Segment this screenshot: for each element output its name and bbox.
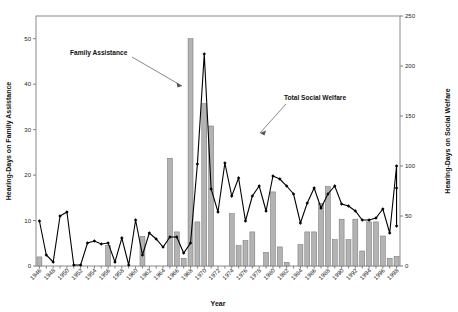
y2-axis-tick-label: 0 <box>405 263 409 269</box>
bar-series-family-assistance <box>37 39 399 266</box>
bar <box>229 214 234 266</box>
bar <box>305 232 310 266</box>
y2-axis-tick-label: 150 <box>405 113 416 119</box>
x-axis-tick-label: 1976 <box>235 267 249 281</box>
bar <box>37 257 42 266</box>
y2-axis-title: Hearing-Days on Social Welfare <box>444 88 452 193</box>
x-axis-tick-label: 1968 <box>180 267 194 281</box>
bar <box>236 246 241 266</box>
x-axis-tick-label: 1956 <box>98 267 112 281</box>
y-axis-title: Hearing-Days on Family Assistance <box>5 82 13 201</box>
y-axis-tick-label: 50 <box>24 36 31 42</box>
x-axis-tick-label: 1986 <box>304 267 318 281</box>
data-point-marker <box>312 186 315 189</box>
bar <box>387 258 392 266</box>
x-axis-tick-label: 1974 <box>221 267 235 281</box>
data-point-marker <box>388 231 391 234</box>
data-point-marker <box>395 224 398 227</box>
y-axis-tick-label: 30 <box>24 127 31 133</box>
data-point-marker <box>271 174 274 177</box>
data-point-marker <box>106 241 109 244</box>
x-axis-tick-label: 1964 <box>153 267 167 281</box>
bar <box>394 256 399 266</box>
bar <box>270 192 275 266</box>
x-axis-tick-label: 1962 <box>139 267 153 281</box>
data-point-marker <box>230 194 233 197</box>
bar <box>277 247 282 266</box>
x-axis-tick-label: 1966 <box>166 267 180 281</box>
x-axis-tick-label: 1954 <box>84 267 98 281</box>
x-axis-tick-label: 1978 <box>249 267 263 281</box>
bar <box>167 158 172 266</box>
data-point-marker <box>86 241 89 244</box>
x-axis-title: Year <box>211 300 226 307</box>
bar <box>188 39 193 266</box>
bar <box>339 219 344 266</box>
x-axis-tick-label: 1950 <box>56 267 70 281</box>
bar <box>195 222 200 266</box>
data-point-marker <box>216 210 219 213</box>
y2-axis-tick-label: 100 <box>405 163 416 169</box>
x-axis-tick-label: 1998 <box>386 267 400 281</box>
data-point-marker <box>120 236 123 239</box>
bar <box>332 240 337 266</box>
x-axis-tick-label: 1970 <box>194 267 208 281</box>
data-point-marker <box>93 239 96 242</box>
y-axis-tick-label: 40 <box>24 81 31 87</box>
y2-axis-tick-label: 200 <box>405 63 416 69</box>
data-point-marker <box>340 202 343 205</box>
chart-container: 0102030405005010015020025019461948195019… <box>0 0 458 312</box>
data-point-marker <box>113 260 116 263</box>
data-point-marker <box>306 201 309 204</box>
bar <box>360 251 365 266</box>
x-axis-tick-label: 1982 <box>276 267 290 281</box>
y-axis-tick-label: 10 <box>24 218 31 224</box>
data-point-marker <box>100 242 103 245</box>
bar <box>353 219 358 266</box>
x-axis-tick-label: 1946 <box>29 267 43 281</box>
bar <box>367 222 372 266</box>
bar <box>346 240 351 266</box>
bar <box>380 236 385 266</box>
bar <box>202 104 207 266</box>
bar <box>298 245 303 266</box>
bar <box>264 252 269 266</box>
data-point-marker <box>203 52 206 55</box>
x-axis-tick-label: 1990 <box>331 267 345 281</box>
family-assistance-arrowhead <box>177 83 183 88</box>
y-axis-tick-label: 0 <box>28 263 32 269</box>
y2-axis-tick-label: 50 <box>405 213 412 219</box>
data-point-marker <box>264 209 267 212</box>
family-assistance-annotation: Family Assistance <box>70 49 128 57</box>
x-axis-tick-label: 1952 <box>70 267 84 281</box>
y2-axis-tick-label: 250 <box>405 13 416 19</box>
x-axis-tick-label: 1972 <box>208 267 222 281</box>
bar <box>250 232 255 266</box>
data-point-marker <box>395 164 398 167</box>
family-assistance-leader-line <box>132 57 182 86</box>
data-point-marker <box>38 219 41 222</box>
data-point-marker <box>196 162 199 165</box>
x-axis-tick-label: 1994 <box>359 267 373 281</box>
bar <box>284 262 289 266</box>
data-point-marker <box>134 218 137 221</box>
x-axis-tick-label: 1958 <box>111 267 125 281</box>
data-point-marker <box>223 161 226 164</box>
data-point-marker <box>244 219 247 222</box>
total-social-welfare-leader-line <box>260 104 286 133</box>
chart-svg: 0102030405005010015020025019461948195019… <box>0 0 458 312</box>
x-axis-tick-label: 1948 <box>43 267 57 281</box>
x-axis-tick-label: 1984 <box>290 267 304 281</box>
x-axis-tick-label: 1960 <box>125 267 139 281</box>
bar <box>319 203 324 266</box>
data-point-marker <box>395 186 398 189</box>
y-axis-tick-label: 20 <box>24 172 31 178</box>
bar <box>373 222 378 266</box>
x-axis-tick-label: 1996 <box>372 267 386 281</box>
data-point-marker <box>237 176 240 179</box>
x-axis-tick-label: 1980 <box>262 267 276 281</box>
bar <box>181 258 186 266</box>
total-social-welfare-arrowhead <box>260 131 266 136</box>
data-point-marker <box>299 221 302 224</box>
x-axis-tick-label: 1992 <box>345 267 359 281</box>
